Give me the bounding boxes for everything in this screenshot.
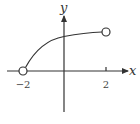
open-endpoint-right bbox=[102, 28, 110, 36]
function-graph: x y −2 2 bbox=[0, 0, 140, 124]
x-tick-label-neg2: −2 bbox=[16, 79, 31, 90]
open-endpoint-left bbox=[19, 67, 27, 75]
x-tick-label-2: 2 bbox=[103, 79, 109, 90]
x-axis-label: x bbox=[129, 63, 137, 78]
y-axis-label: y bbox=[59, 0, 68, 15]
